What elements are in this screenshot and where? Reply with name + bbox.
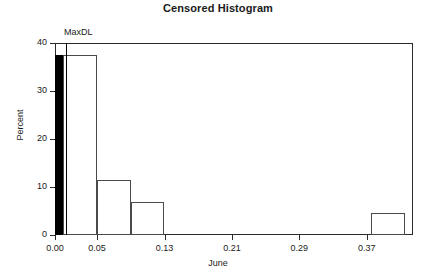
histogram-figure: Censored Histogram 010203040 Percent 0.0… (0, 0, 436, 275)
y-axis-tick (50, 91, 55, 92)
x-axis-tick-label: 0.05 (77, 243, 117, 253)
plot-area (55, 43, 413, 235)
max-detection-limit-label: MaxDL (64, 27, 93, 37)
x-axis-tick (97, 235, 98, 240)
x-axis-title: June (0, 258, 436, 268)
y-axis-tick-label: 20 (23, 134, 47, 143)
y-axis-tick-label: 10 (23, 182, 47, 191)
x-axis-tick-label: 0.21 (212, 243, 252, 253)
x-axis-tick (55, 235, 56, 240)
max-detection-limit-reference-line (66, 43, 67, 235)
histogram-bar (97, 180, 131, 235)
x-axis-tick-label: 0.29 (279, 243, 319, 253)
y-axis-tick (50, 187, 55, 188)
x-axis-tick (299, 235, 300, 240)
y-axis-title: Percent (15, 95, 25, 155)
histogram-bar (63, 55, 97, 235)
x-axis-tick-label: 0.00 (35, 243, 75, 253)
histogram-bar (131, 202, 165, 235)
y-axis-tick-label: 40 (23, 38, 47, 47)
x-axis-tick-label: 0.37 (347, 243, 387, 253)
y-axis-tick (50, 139, 55, 140)
y-axis-tick (50, 43, 55, 44)
x-axis-tick-label: 0.13 (145, 243, 185, 253)
x-axis-tick (165, 235, 166, 240)
x-axis-tick (232, 235, 233, 240)
histogram-bar (55, 55, 63, 235)
x-axis-tick (367, 235, 368, 240)
y-axis-tick-label: 0 (23, 230, 47, 239)
chart-title: Censored Histogram (0, 2, 436, 14)
histogram-bar (371, 213, 405, 235)
y-axis-tick-label: 30 (23, 86, 47, 95)
